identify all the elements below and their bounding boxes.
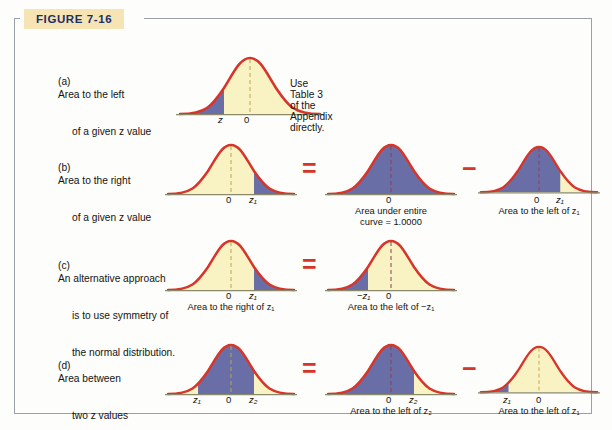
- curve-b-1-tick-z1: z₁: [249, 194, 257, 205]
- curve-b-3-tick-z1: z₁: [556, 194, 564, 205]
- curve-c-1-tick-z1: z₁: [249, 290, 257, 301]
- curve-d-2: 0 z₂ Area to the left of z₂: [325, 340, 457, 402]
- figure-tag: FIGURE 7-16: [24, 9, 124, 29]
- curve-b-2-sublabel: Area under entire curve = 1.0000: [323, 206, 459, 228]
- operator-minus-b: −: [462, 156, 477, 181]
- curve-b-3: 0 z₁ Area to the left of z₁: [478, 140, 600, 202]
- operator-equals-b: =: [302, 156, 317, 181]
- curve-c-1-tick-zero: 0: [226, 290, 231, 301]
- curve-c-2: −z₁ 0 Area to the left of −z₁: [325, 236, 457, 298]
- row-b-caption-prefix: (b): [58, 162, 70, 173]
- curve-c-2-tick-zero: 0: [386, 290, 391, 301]
- row-b-caption-line1: Area to the right: [58, 175, 131, 186]
- curve-d-2-tick-z2: z₂: [409, 394, 417, 405]
- row-b-caption-line2: of a given z value: [72, 212, 151, 223]
- curve-b-1: 0 z₁: [165, 140, 297, 202]
- curve-d-1: z₁ 0 z₂: [165, 340, 297, 402]
- row-a-caption-line1: Area to the left: [58, 89, 124, 100]
- row-c-caption-line2: is to use symmetry of: [72, 310, 168, 321]
- row-d-caption-prefix: (d): [58, 360, 70, 371]
- curve-d-3-sublabel: Area to the left of z₁: [472, 406, 606, 417]
- curve-b-2-tick-zero: 0: [386, 194, 391, 205]
- curve-a-1-tick-zero: 0: [244, 114, 249, 125]
- operator-equals-c: =: [302, 252, 317, 277]
- curve-d-1-tick-z2: z₂: [249, 394, 257, 405]
- curve-d-3: z₁ 0 Area to the left of z₁: [478, 340, 600, 402]
- curve-b-2: 0 Area under entire curve = 1.0000: [325, 140, 457, 202]
- curve-d-3-tick-z1: z₁: [503, 394, 511, 405]
- curve-a-1-tick-z: z: [218, 114, 223, 125]
- curve-c-2-tick-negz1: −z₁: [357, 290, 370, 301]
- curve-c-1-sublabel: Area to the right of z₁: [163, 302, 299, 313]
- row-a-note: Use Table 3 of the Appendix directly.: [290, 78, 332, 133]
- operator-equals-d: =: [302, 356, 317, 381]
- curve-b-3-sublabel: Area to the left of z₁: [472, 206, 606, 217]
- row-d-caption-line1: Area between: [58, 373, 121, 384]
- curve-c-2-sublabel: Area to the left of −z₁: [323, 302, 459, 313]
- row-a-caption-line2: of a given z value: [72, 126, 151, 137]
- row-a-caption-prefix: (a): [58, 76, 70, 87]
- operator-minus-d: −: [462, 356, 477, 381]
- curve-d-2-sublabel: Area to the left of z₂: [323, 406, 459, 417]
- curve-d-2-tick-zero: 0: [386, 394, 391, 405]
- curve-d-1-blue-fill: [198, 340, 254, 402]
- row-d-caption-line2: two z values: [72, 410, 128, 421]
- curve-d-1-tick-z1: z₁: [193, 394, 201, 405]
- curve-b-3-tick-zero: 0: [534, 194, 539, 205]
- curve-d-3-tick-zero: 0: [536, 394, 541, 405]
- curve-c-1: 0 z₁ Area to the right of z₁: [165, 236, 297, 298]
- curve-d-1-tick-zero: 0: [226, 394, 231, 405]
- row-c-caption-line1: An alternative approach: [58, 273, 166, 284]
- row-c-caption-prefix: (c): [58, 260, 70, 271]
- curve-b-1-tick-zero: 0: [226, 194, 231, 205]
